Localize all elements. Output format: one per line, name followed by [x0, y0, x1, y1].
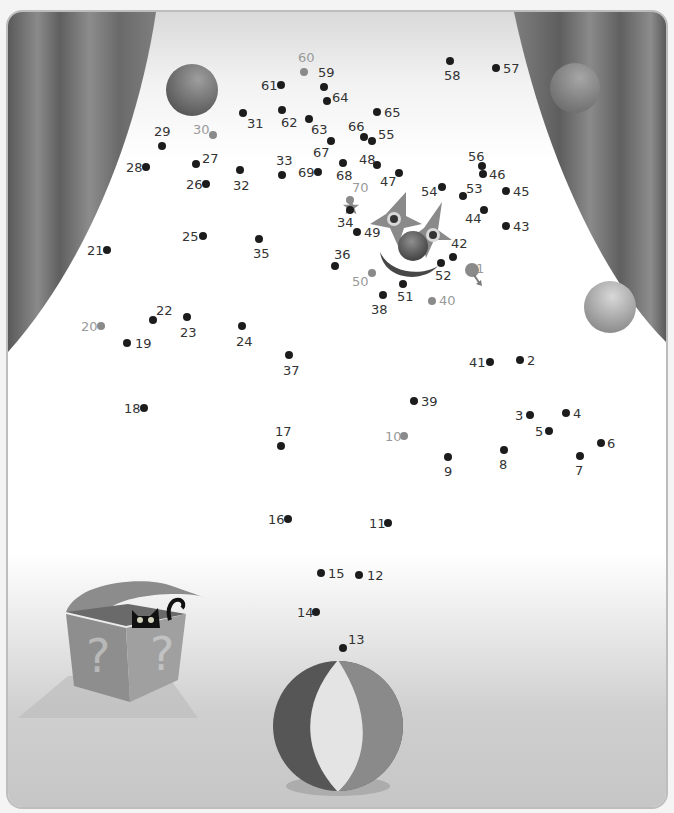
dot-23[interactable]: [183, 313, 191, 321]
dot-21[interactable]: [103, 246, 111, 254]
dot-37[interactable]: [285, 351, 293, 359]
dot-label-46: 46: [489, 168, 506, 181]
dot-13[interactable]: [339, 644, 347, 652]
dot-label-50: 50: [352, 275, 369, 288]
dot-32[interactable]: [236, 166, 244, 174]
dot-40[interactable]: [428, 297, 436, 305]
dot-65[interactable]: [373, 108, 381, 116]
question-mark-left: ?: [86, 629, 110, 683]
dot-68[interactable]: [339, 159, 347, 167]
dot-25[interactable]: [199, 232, 207, 240]
dot-39[interactable]: [410, 397, 418, 405]
dot-label-13: 13: [348, 633, 365, 646]
dot-31[interactable]: [239, 109, 247, 117]
dot-label-48: 48: [359, 153, 376, 166]
dot-35[interactable]: [255, 235, 263, 243]
dot-36[interactable]: [331, 262, 339, 270]
dot-3[interactable]: [526, 411, 534, 419]
dot-33[interactable]: [278, 171, 286, 179]
dot-54[interactable]: [438, 183, 446, 191]
dot-2[interactable]: [516, 356, 524, 364]
dot-label-14: 14: [297, 606, 314, 619]
dot-label-15: 15: [328, 567, 345, 580]
dot-9[interactable]: [444, 453, 452, 461]
dot-34[interactable]: [346, 206, 354, 214]
dot-70[interactable]: [346, 196, 354, 204]
dot-29[interactable]: [158, 142, 166, 150]
dot-7[interactable]: [576, 452, 584, 460]
dot-label-49: 49: [364, 226, 381, 239]
clown-nose: [398, 231, 428, 261]
dot-label-43: 43: [513, 220, 530, 233]
dot-57[interactable]: [492, 64, 500, 72]
dot-45[interactable]: [502, 187, 510, 195]
question-mark-right: ?: [150, 627, 174, 681]
dot-label-41: 41: [469, 356, 486, 369]
dot-66[interactable]: [360, 133, 368, 141]
dot-label-63: 63: [311, 123, 328, 136]
dot-51[interactable]: [399, 280, 407, 288]
dot-50[interactable]: [368, 269, 376, 277]
dot-19[interactable]: [123, 339, 131, 347]
dot-label-56: 56: [468, 150, 485, 163]
dot-label-22: 22: [156, 304, 173, 317]
dot-label-27: 27: [202, 152, 219, 165]
dot-label-2: 2: [527, 354, 535, 367]
dot-label-67: 67: [313, 146, 330, 159]
dot-26[interactable]: [202, 180, 210, 188]
dot-52[interactable]: [437, 259, 445, 267]
dot-24[interactable]: [238, 322, 246, 330]
dot-label-55: 55: [378, 128, 395, 141]
dot-label-3: 3: [515, 409, 523, 422]
dot-label-62: 62: [281, 116, 298, 129]
dot-46[interactable]: [479, 170, 487, 178]
dot-label-44: 44: [465, 212, 482, 225]
dot-69[interactable]: [314, 168, 322, 176]
dot-8[interactable]: [500, 446, 508, 454]
dot-18[interactable]: [140, 404, 148, 412]
dot-label-52: 52: [435, 269, 452, 282]
dot-67[interactable]: [327, 137, 335, 145]
dot-label-34: 34: [337, 216, 354, 229]
dot-label-12: 12: [367, 569, 384, 582]
dot-60[interactable]: [300, 68, 308, 76]
beach-ball: [268, 646, 408, 806]
dot-15[interactable]: [317, 569, 325, 577]
dot-38[interactable]: [379, 291, 387, 299]
dot-label-8: 8: [499, 458, 507, 471]
dot-label-16: 16: [268, 513, 285, 526]
dot-16[interactable]: [284, 515, 292, 523]
dot-label-28: 28: [126, 161, 143, 174]
dot-42[interactable]: [449, 253, 457, 261]
dot-label-7: 7: [575, 464, 583, 477]
dot-5[interactable]: [545, 427, 553, 435]
dot-62[interactable]: [278, 106, 286, 114]
dot-12[interactable]: [355, 571, 363, 579]
dot-43[interactable]: [502, 222, 510, 230]
dot-1[interactable]: [468, 264, 476, 272]
dot-58[interactable]: [446, 57, 454, 65]
dot-label-32: 32: [233, 179, 250, 192]
dot-20[interactable]: [97, 322, 105, 330]
dot-41[interactable]: [486, 358, 494, 366]
dot-label-17: 17: [275, 425, 292, 438]
dot-label-23: 23: [180, 326, 197, 339]
dot-64[interactable]: [323, 97, 331, 105]
dot-label-21: 21: [87, 244, 104, 257]
dot-27[interactable]: [192, 160, 200, 168]
dot-17[interactable]: [277, 442, 285, 450]
dot-label-4: 4: [573, 407, 581, 420]
dot-label-66: 66: [348, 120, 365, 133]
dot-49[interactable]: [353, 228, 361, 236]
dot-label-51: 51: [397, 290, 414, 303]
dot-61[interactable]: [277, 81, 285, 89]
dot-28[interactable]: [142, 163, 150, 171]
dot-6[interactable]: [597, 439, 605, 447]
dot-55[interactable]: [368, 137, 376, 145]
dot-59[interactable]: [320, 83, 328, 91]
dot-label-39: 39: [421, 395, 438, 408]
dot-4[interactable]: [562, 409, 570, 417]
dot-label-60: 60: [298, 51, 315, 64]
dot-label-59: 59: [318, 66, 335, 79]
dot-30[interactable]: [209, 131, 217, 139]
